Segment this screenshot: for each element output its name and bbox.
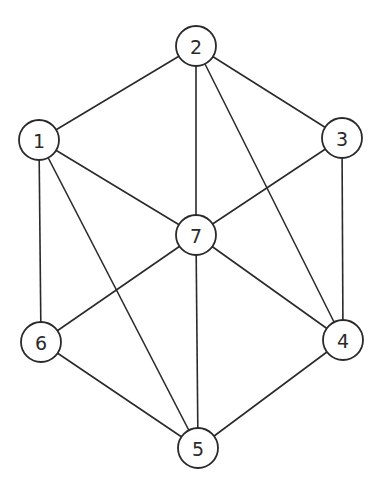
edge-7-4 — [196, 235, 343, 340]
node-label: 2 — [190, 36, 202, 58]
nodes-layer: 1234567 — [19, 26, 363, 468]
edge-2-3 — [196, 46, 342, 138]
edge-2-4 — [196, 46, 343, 340]
edge-1-7 — [39, 140, 196, 235]
node-label: 3 — [336, 128, 348, 150]
edge-7-6 — [41, 235, 196, 342]
edge-3-7 — [196, 138, 342, 235]
edge-1-2 — [39, 46, 196, 140]
node-4: 4 — [323, 320, 363, 360]
node-label: 7 — [190, 225, 202, 247]
node-2: 2 — [176, 26, 216, 66]
node-label: 5 — [192, 438, 204, 460]
node-3: 3 — [322, 118, 362, 158]
node-5: 5 — [178, 428, 218, 468]
node-1: 1 — [19, 120, 59, 160]
node-7: 7 — [176, 215, 216, 255]
edge-7-5 — [196, 235, 198, 448]
node-label: 6 — [35, 332, 47, 354]
edge-1-5 — [39, 140, 198, 448]
edge-1-6 — [39, 140, 41, 342]
node-label: 4 — [337, 330, 349, 352]
node-label: 1 — [33, 130, 45, 152]
node-6: 6 — [21, 322, 61, 362]
graph-diagram: 1234567 — [0, 0, 384, 486]
edge-4-5 — [198, 340, 343, 448]
edge-6-5 — [41, 342, 198, 448]
edge-3-4 — [342, 138, 343, 340]
